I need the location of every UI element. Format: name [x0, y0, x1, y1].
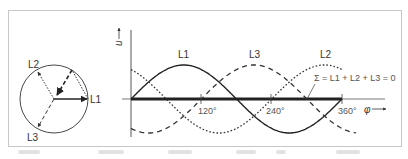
sum-equation: Σ = L1 + L2 + L3 = 0	[314, 73, 396, 83]
tick-label-240: 240°	[266, 106, 285, 116]
phasor-diagram: L1 L2 L3	[20, 59, 102, 143]
tick-label-360: 360°	[338, 106, 357, 116]
tick-label-120: 120°	[198, 106, 217, 116]
phasor-l3-construction	[57, 70, 72, 95]
svg-text:u: u	[113, 40, 124, 46]
curve-label-l2: L2	[320, 49, 332, 60]
phasor-l2-arrow	[38, 72, 54, 99]
waveform-chart: u 120° 240° 360° φ L1 L3 L2 Σ = L1 + L2 …	[113, 28, 396, 137]
phasor-label-l3: L3	[27, 132, 39, 143]
phasor-label-l1: L1	[90, 94, 102, 105]
y-axis-label: u	[113, 40, 124, 46]
sum-leader-line	[307, 84, 315, 99]
curve-label-l3: L3	[249, 49, 261, 60]
curve-label-l1: L1	[178, 49, 190, 60]
phasor-l2-construction	[72, 70, 88, 99]
x-axis-label: φ	[364, 104, 371, 115]
phasor-label-l2: L2	[28, 59, 40, 70]
figure-canvas: L1 L2 L3 u 120° 240° 360° φ L1 L3 L2	[0, 0, 408, 159]
caption-placeholder	[8, 150, 402, 156]
phasor-l3-arrow	[38, 99, 54, 127]
